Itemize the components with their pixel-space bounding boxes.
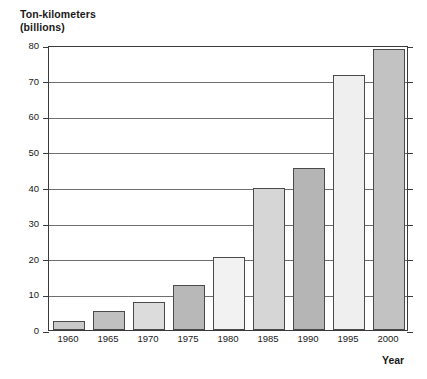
y-axis-tick-right	[407, 82, 413, 83]
y-axis-title-line1: Ton-kilometers	[20, 8, 96, 20]
x-axis-tick-label: 1985	[248, 334, 288, 344]
x-axis-tick-label: 1970	[128, 334, 168, 344]
bar-1970	[133, 302, 165, 330]
y-axis-tick-right	[407, 260, 413, 261]
x-axis-tick-label: 1960	[48, 334, 88, 344]
bar-2000	[373, 49, 405, 330]
x-axis-tick-label: 1990	[288, 334, 328, 344]
y-axis-tick-label: 10	[13, 290, 39, 300]
y-axis-tick-label: 50	[13, 148, 39, 158]
y-axis-tick-right	[407, 225, 413, 226]
y-axis-title-line2: (billions)	[20, 21, 65, 33]
y-axis-tick-right	[407, 118, 413, 119]
bar-1975	[173, 285, 205, 330]
y-axis-tick-label: 20	[13, 255, 39, 265]
y-axis-tick-right	[407, 189, 413, 190]
y-axis-tick-label: 60	[13, 112, 39, 122]
x-axis-tick-label: 1965	[88, 334, 128, 344]
x-axis-tick-label: 1975	[168, 334, 208, 344]
y-axis-tick-label: 40	[13, 184, 39, 194]
y-axis-tick-right	[407, 153, 413, 154]
y-axis-tick-label: 0	[13, 326, 39, 336]
y-axis-tick-label: 30	[13, 219, 39, 229]
bar-1990	[293, 168, 325, 330]
bar-1960	[53, 321, 85, 330]
y-axis-tick-right	[407, 296, 413, 297]
y-axis-tick-label: 80	[13, 41, 39, 51]
bar-1995	[333, 75, 365, 330]
bar-1985	[253, 188, 285, 330]
x-axis-title: Year	[382, 354, 404, 366]
x-axis-tick-label: 1995	[328, 334, 368, 344]
x-axis-tick-label: 2000	[368, 334, 408, 344]
bar-series	[49, 47, 407, 330]
y-axis-tick	[43, 332, 49, 333]
x-axis-tick-label: 1980	[208, 334, 248, 344]
y-axis-title: Ton-kilometers(billions)	[20, 8, 96, 34]
plot-area	[48, 46, 408, 331]
y-axis-tick-label: 70	[13, 77, 39, 87]
bar-chart: Ton-kilometers(billions) 010203040506070…	[0, 0, 427, 379]
y-axis-tick-right	[407, 47, 413, 48]
bar-1965	[93, 311, 125, 330]
y-axis-tick-right	[407, 332, 413, 333]
bar-1980	[213, 257, 245, 330]
